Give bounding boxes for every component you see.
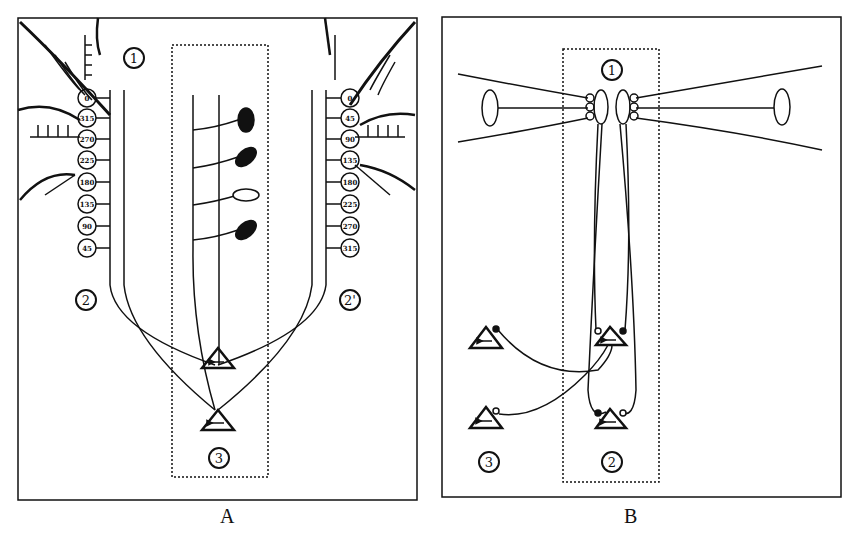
orientation-label: 135 [343, 156, 358, 165]
receptor-fan-top [85, 18, 100, 80]
orientation-label: 225 [80, 156, 95, 165]
triangle-neuron-b-center-top [595, 327, 626, 345]
region-label-2-prime: 2' [344, 293, 356, 308]
eye-structures [458, 66, 822, 150]
panel-a-frame [18, 18, 417, 500]
panel-a-labels: 1 2 2' 3 0 315 270 225 180 135 90 45 0 4… [76, 48, 360, 468]
left-orientation-column [78, 89, 215, 410]
orientation-label: 315 [343, 244, 358, 253]
orientation-label: 315 [80, 114, 95, 123]
orientation-label: 270 [343, 222, 358, 231]
figure-canvas: 1 2 2' 3 0 315 270 225 180 135 90 45 0 4… [0, 0, 854, 533]
right-orientation-column [218, 89, 359, 410]
orientation-label: 180 [80, 178, 95, 187]
orientation-label: 45 [82, 244, 92, 253]
panel-a-caption: A [220, 505, 234, 528]
orientation-label: 0 [85, 94, 90, 103]
orientation-label: 0 [348, 94, 353, 103]
orientation-label: 45 [345, 114, 355, 123]
panel-b-caption: B [624, 505, 637, 528]
receptor-fan-top-right [325, 18, 415, 195]
orientation-label: 90 [345, 135, 355, 144]
region-label-2: 2 [82, 293, 90, 308]
orientation-label: 180 [343, 178, 358, 187]
triangle-neuron-b-center-bottom [595, 409, 626, 428]
panel-a [18, 18, 417, 500]
region-label-2: 2 [608, 455, 616, 470]
region-label-1: 1 [608, 63, 616, 78]
triangle-neuron-right-arrow [202, 410, 234, 430]
region-label-3: 3 [215, 451, 223, 466]
panel-b-dashed-region [563, 49, 659, 482]
region-label-1: 1 [130, 51, 138, 66]
orientation-label: 90 [82, 222, 92, 231]
region-label-3: 3 [485, 455, 493, 470]
orientation-label: 135 [80, 200, 95, 209]
receptor-fan-top-left [18, 22, 110, 200]
triangle-neuron-b-left-bottom [470, 345, 608, 428]
orientation-label: 225 [343, 200, 358, 209]
orientation-label: 270 [80, 135, 95, 144]
panel-b [442, 17, 841, 497]
panel-b-labels: 1 2 3 [479, 60, 622, 472]
